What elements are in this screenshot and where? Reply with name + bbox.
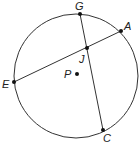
point-e [12,80,16,84]
label-a: A [123,20,131,32]
point-j [85,46,89,50]
point-p [75,72,79,76]
label-c: C [103,132,111,143]
point-a [119,29,123,33]
label-j: J [78,53,85,65]
circle-p [14,14,138,138]
chord-gc [80,14,103,130]
circle-diagram: G A E C J P [0,0,139,143]
label-g: G [75,0,84,12]
label-e: E [2,78,10,90]
point-g [78,12,82,16]
label-p: P [64,68,72,80]
